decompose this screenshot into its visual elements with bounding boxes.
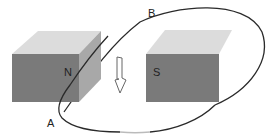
label-point-b: B <box>148 7 155 19</box>
diagram-canvas: N S B A <box>0 0 276 140</box>
label-point-a: A <box>47 117 55 129</box>
magnet-south-front-face <box>146 54 219 102</box>
loop-front-fade <box>120 132 150 133</box>
magnet-north <box>12 31 101 102</box>
magnet-south-top-face <box>146 30 232 54</box>
magnet-north-front-face <box>12 54 79 102</box>
label-north-pole: N <box>64 66 72 78</box>
label-south-pole: S <box>153 66 160 78</box>
arrow-down-icon <box>115 57 126 93</box>
loop-front-right <box>150 105 215 132</box>
